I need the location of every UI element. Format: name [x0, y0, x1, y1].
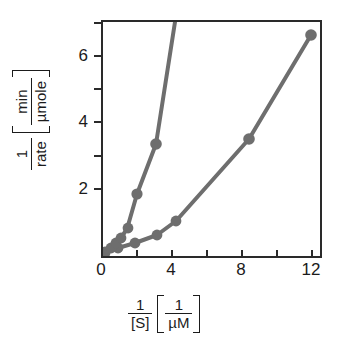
- data-point: [152, 230, 163, 241]
- x-axis-unit-fraction: 1 µM: [165, 297, 192, 331]
- y-tick-4: [94, 121, 101, 123]
- y-tick-2: [94, 188, 101, 190]
- x-axis-fraction-s: 1 [S]: [128, 297, 152, 331]
- x-axis-label: 1 [S] 1 µM: [128, 295, 200, 333]
- data-point: [243, 133, 255, 145]
- y-tick-3: [94, 155, 101, 157]
- x-tick-label-12: 12: [294, 261, 328, 278]
- y-axis-unit-denominator: µmole: [33, 78, 48, 125]
- y-axis-unit-bracket: min µmole: [12, 70, 50, 133]
- y-tick-label-4: 4: [62, 113, 88, 130]
- x-axis-unit-denominator: µM: [165, 315, 192, 330]
- bracket-left: [12, 126, 50, 133]
- y-tick-label-6: 6: [62, 47, 88, 64]
- x-tick-8: [241, 250, 243, 257]
- data-point: [116, 233, 127, 244]
- x-axis-unit-numerator: 1: [172, 297, 186, 312]
- x-axis-fraction-numerator: 1: [133, 297, 147, 312]
- x-tick-label-0: 0: [84, 261, 118, 278]
- y-tick-label-2: 2: [62, 180, 88, 197]
- x-tick-0: [101, 250, 103, 257]
- y-axis-fraction-denominator: rate: [33, 138, 48, 170]
- x-tick-label-8: 8: [224, 261, 258, 278]
- x-tick-10: [276, 250, 278, 257]
- y-axis-unit-fraction: min µmole: [14, 78, 48, 125]
- bracket-right: [12, 70, 50, 77]
- x-tick-6: [206, 250, 208, 257]
- y-axis-label: 1 rate min µmole: [11, 45, 51, 195]
- plot-canvas: [103, 22, 320, 256]
- data-point: [305, 29, 317, 41]
- y-axis-fraction-rate: 1 rate: [14, 138, 48, 170]
- data-point: [123, 223, 134, 234]
- y-tick-7: [94, 22, 101, 24]
- lineweaver-burk-figure: 0 4 8 12 6 4 2 1 rate min µmole: [0, 0, 348, 351]
- x-tick-4: [171, 250, 173, 257]
- shallow-line-path: [105, 35, 311, 253]
- x-tick-12: [311, 250, 313, 257]
- data-point: [171, 216, 182, 227]
- x-tick-label-4: 4: [154, 261, 188, 278]
- y-axis-fraction-numerator: 1: [14, 147, 29, 161]
- y-axis-unit-numerator: min: [14, 87, 29, 117]
- x-axis-fraction-denominator: [S]: [128, 315, 152, 330]
- data-point: [130, 238, 141, 249]
- series-steep-line: [103, 22, 175, 256]
- bracket-left: [157, 295, 164, 333]
- data-point: [150, 138, 162, 150]
- y-tick-5: [94, 88, 101, 90]
- y-tick-6: [94, 55, 101, 57]
- x-axis-unit-bracket: 1 µM: [157, 295, 200, 333]
- series-shallow-line: [103, 29, 317, 256]
- steep-line-path: [105, 22, 175, 252]
- data-point: [131, 188, 142, 199]
- x-tick-2: [136, 250, 138, 257]
- plot-area: [101, 20, 322, 258]
- bracket-right: [193, 295, 200, 333]
